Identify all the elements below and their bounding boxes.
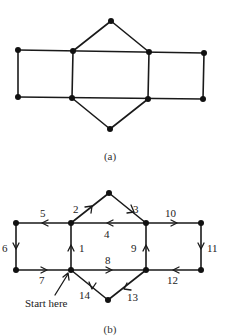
start-pointer-line — [55, 274, 68, 295]
euler-circuit-figure: (a) — [0, 0, 232, 336]
edge-roof-left — [73, 21, 111, 51]
vertex — [106, 190, 112, 196]
edge-label-1: 1 — [79, 242, 85, 254]
edge-label-12: 12 — [167, 274, 178, 286]
vertex — [68, 220, 74, 226]
vertex — [200, 96, 206, 102]
edge-label-3: 3 — [133, 203, 139, 215]
vertex — [69, 95, 75, 101]
edge-label-5: 5 — [40, 207, 46, 219]
vertex — [198, 267, 204, 273]
edge-roof-right — [111, 21, 149, 52]
arrow-14-upleft-icon — [89, 282, 96, 289]
edge-label-11: 11 — [207, 242, 218, 254]
edge-label-8: 8 — [105, 254, 111, 266]
edge-right-vertical — [203, 53, 204, 99]
edge-top-row — [18, 50, 204, 53]
vertex — [70, 48, 76, 54]
edge-roof-right — [109, 193, 146, 223]
vertex — [146, 49, 152, 55]
edge-keel-right — [110, 99, 148, 129]
edge-inner-left-vertical — [72, 51, 73, 98]
vertex — [15, 94, 21, 100]
edge-label-10: 10 — [165, 207, 177, 219]
edge-label-2: 2 — [73, 203, 79, 215]
vertex — [198, 220, 204, 226]
edge-label-4: 4 — [104, 228, 110, 240]
edge-label-6: 6 — [2, 242, 8, 254]
vertex — [15, 47, 21, 53]
vertex — [108, 18, 114, 24]
caption-b: (b) — [104, 323, 117, 336]
edge-inner-right-vertical — [148, 52, 149, 99]
vertex — [105, 297, 111, 303]
graph-a: (a) — [15, 18, 207, 163]
vertex — [13, 220, 19, 226]
vertex — [143, 267, 149, 273]
caption-a: (a) — [104, 150, 117, 163]
vertex-start — [68, 267, 74, 273]
vertex — [201, 50, 207, 56]
vertex — [143, 220, 149, 226]
edge-label-14: 14 — [79, 289, 91, 301]
edge-label-13: 13 — [127, 291, 139, 303]
edge-bottom-row — [18, 97, 203, 99]
graph-b: 1 2 3 4 5 6 7 8 9 10 11 12 13 14 Start h… — [2, 190, 218, 336]
vertex — [13, 267, 19, 273]
start-label: Start here — [25, 297, 68, 309]
vertex — [107, 126, 113, 132]
vertex — [145, 96, 151, 102]
edge-label-7: 7 — [39, 274, 45, 286]
edge-label-9: 9 — [131, 242, 137, 254]
edge-keel-left — [72, 98, 110, 129]
